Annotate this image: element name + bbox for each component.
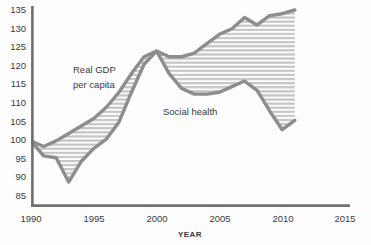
chart-container: 135 130 125 120 115 110 105 100 95 90 85… <box>0 0 371 245</box>
series-annotation-line-2: per capita <box>73 79 115 90</box>
y-tick-label: 125 <box>10 41 26 52</box>
y-tick-label: 85 <box>15 190 26 201</box>
x-tick-label: 2015 <box>334 213 355 224</box>
chart-background <box>0 0 371 245</box>
series-annotation-line-1: Real GDP <box>73 64 116 75</box>
y-tick-label: 100 <box>10 134 26 145</box>
x-tick-label: 2000 <box>146 213 167 224</box>
y-tick-label: 105 <box>10 116 26 127</box>
y-tick-label: 135 <box>10 4 26 15</box>
x-tick-label: 1990 <box>20 213 41 224</box>
y-tick-label: 110 <box>11 97 26 108</box>
y-tick-label: 130 <box>10 23 26 34</box>
x-tick-label: 2005 <box>209 213 230 224</box>
y-tick-label: 115 <box>11 78 26 89</box>
y-tick-label: 95 <box>15 153 26 164</box>
y-tick-label: 120 <box>10 60 26 71</box>
y-tick-label: 90 <box>15 171 26 182</box>
x-tick-label: 2010 <box>272 213 293 224</box>
x-tick-label: 1995 <box>83 213 104 224</box>
series-annotation-social-health: Social health <box>163 106 217 117</box>
chart-canvas: 135 130 125 120 115 110 105 100 95 90 85… <box>0 0 371 245</box>
x-axis-title: YEAR <box>178 230 202 239</box>
